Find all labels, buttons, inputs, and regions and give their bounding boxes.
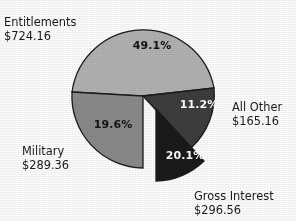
pie-chart-figure: 49.1% 19.6% 20.1% 11.2% Entitlements $72… (0, 0, 296, 221)
slice-percent-gross-interest: 20.1% (166, 149, 205, 162)
slice-percent-entitlements: 49.1% (133, 39, 172, 52)
callout-military: Military $289.36 (22, 145, 69, 172)
callout-entitlements: Entitlements $724.16 (4, 16, 76, 43)
callout-entitlements-name: Entitlements (4, 15, 76, 29)
callout-gross-interest-amount: $296.56 (194, 204, 274, 218)
callout-entitlements-amount: $724.16 (4, 30, 76, 44)
callout-gross-interest: Gross Interest $296.56 (194, 190, 274, 217)
callout-military-name: Military (22, 144, 64, 158)
callout-all-other: All Other $165.16 (232, 101, 282, 128)
callout-all-other-amount: $165.16 (232, 115, 282, 129)
callout-gross-interest-name: Gross Interest (194, 189, 274, 203)
callout-all-other-name: All Other (232, 100, 282, 114)
slice-percent-military: 19.6% (94, 118, 133, 131)
slice-percent-all-other: 11.2% (180, 98, 219, 111)
callout-military-amount: $289.36 (22, 159, 69, 173)
